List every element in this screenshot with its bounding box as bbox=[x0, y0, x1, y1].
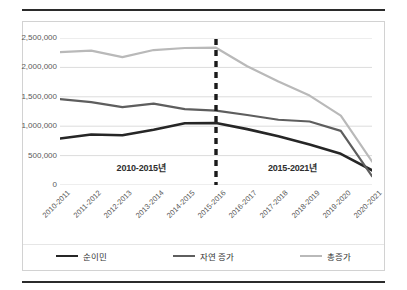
legend-line-swatch bbox=[173, 255, 195, 257]
x-tick-label: 2016-2017 bbox=[228, 189, 259, 220]
legend-label: 순이민 bbox=[83, 250, 106, 262]
x-tick-label: 2013-2014 bbox=[134, 189, 165, 220]
x-tick-label: 2011-2012 bbox=[73, 189, 103, 219]
legend-item-1[interactable]: 자연 증가 bbox=[173, 250, 233, 262]
x-tick-label: 2020-2021 bbox=[353, 189, 384, 220]
x-tick-label: 2015-2016 bbox=[197, 189, 228, 220]
bottom-rule bbox=[22, 281, 385, 283]
legend-label: 자연 증가 bbox=[200, 250, 233, 262]
x-tick-label: 2014-2015 bbox=[165, 189, 196, 220]
legend-label: 총증가 bbox=[327, 250, 350, 262]
legend-item-0[interactable]: 순이민 bbox=[56, 250, 106, 262]
x-tick-label: 2017-2018 bbox=[259, 189, 290, 220]
chart-legend: 순이민자연 증가총증가 bbox=[23, 245, 384, 267]
x-tick-label: 2012-2013 bbox=[103, 189, 134, 220]
legend-item-2[interactable]: 총증가 bbox=[300, 250, 350, 262]
legend-line-swatch bbox=[300, 255, 322, 257]
figure-root: 0500,0001,000,0001,500,0002,000,0002,500… bbox=[0, 0, 407, 290]
x-tick-label: 2010-2011 bbox=[41, 189, 71, 219]
x-tick-label: 2019-2020 bbox=[321, 189, 352, 220]
x-tick-label: 2018-2019 bbox=[290, 189, 321, 220]
legend-line-swatch bbox=[56, 255, 78, 257]
